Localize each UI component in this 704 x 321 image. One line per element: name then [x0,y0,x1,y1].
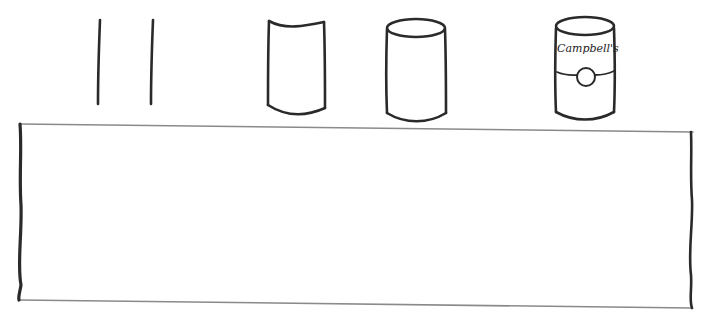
step-1-parallel-lines [98,20,153,104]
step-2-curved-cylinder [268,21,325,114]
step-4-soup-can: Campbell's [555,17,619,120]
sketch-canvas: Campbell's [0,0,704,321]
can-medallion-icon [577,68,595,86]
step-3-cylinder [386,19,446,121]
drawing-box [19,124,693,308]
can-label-text: Campbell's [557,42,619,55]
